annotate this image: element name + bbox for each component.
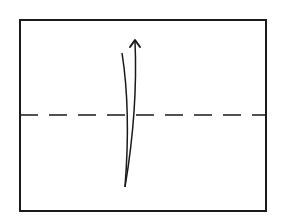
origami-diagram	[0, 0, 282, 221]
fold-arrow-tail	[122, 53, 127, 187]
